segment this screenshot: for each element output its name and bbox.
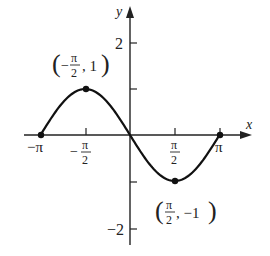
annotation-max-point: ( − π 2 , 1 ) [52,49,110,80]
x-tick-label-neg-half-pi: − π 2 [70,138,91,167]
point-min [172,178,178,184]
point-neg-pi [38,132,44,138]
svg-text:): ) [208,196,217,225]
x-tick-label-half-pi: π 2 [170,138,180,167]
svg-text:2: 2 [166,213,172,227]
svg-text:−: − [70,144,78,159]
svg-text:π: π [82,138,88,152]
svg-text:π: π [71,51,77,65]
x-axis-arrow-icon [240,131,252,139]
svg-text:2: 2 [82,153,88,167]
sine-graph: x y 2 −2 −π − π 2 π 2 π ( − π 2 , 1 ) [0,0,270,256]
svg-text:, 1: , 1 [82,58,97,74]
y-tick-label-neg2: −2 [107,221,124,238]
svg-text:2: 2 [71,66,77,80]
y-axis-label: y [114,4,123,19]
svg-text:π: π [171,138,177,152]
y-axis-arrow-icon [126,6,134,18]
svg-text:π: π [166,198,172,212]
point-max [83,86,89,92]
x-tick-label-neg-pi: −π [27,139,43,155]
svg-text:−: − [61,58,69,73]
svg-text:(: ( [155,196,164,225]
x-axis-label: x [245,117,253,132]
point-pi [217,132,223,138]
svg-text:): ) [101,49,110,78]
annotation-min-point: ( π 2 , −1 ) [155,196,217,227]
svg-text:, −1: , −1 [176,205,199,221]
y-tick-label-2: 2 [115,35,123,52]
svg-text:2: 2 [171,153,177,167]
svg-text:(: ( [52,49,61,78]
